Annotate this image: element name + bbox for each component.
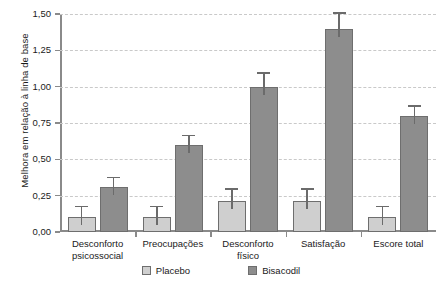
x-category-label: Preocupações [135,238,210,250]
error-bar-cap [376,206,389,208]
error-bar-cap [75,206,88,208]
y-tick-label: 0,75 [33,118,52,128]
legend-label: Placebo [156,265,190,276]
bar-group [286,14,361,232]
error-bar-cap [107,177,120,179]
x-tick-mark [210,232,211,237]
error-bar [263,74,265,95]
y-tick-label: 1,50 [33,9,52,19]
error-bar [414,107,416,124]
bar-chart: Melhora em relação à linha de base 0,000… [0,0,442,291]
error-bar [231,190,233,210]
error-bar-cap [301,188,314,190]
x-category-label-line: Satisfação [286,238,361,250]
x-category-label-line: físico [210,250,285,262]
y-tick-label: 1,00 [33,82,52,92]
legend-item-placebo: Placebo [142,265,190,276]
x-category-label-line: Desconforto [210,238,285,250]
bar-group [361,14,436,232]
bar-bisacodil [400,116,428,232]
x-tick-mark [286,232,287,237]
bar-bisacodil [250,87,278,232]
y-tick-label: 1,25 [33,46,52,56]
x-tick-mark [361,232,362,237]
error-bar-cap [182,135,195,137]
x-category-label: Satisfação [286,238,361,250]
y-axis-title: Melhora em relação à linha de base [19,1,30,221]
bar-group [210,14,285,232]
bar-bisacodil [325,29,353,232]
error-bar [306,190,308,210]
legend-item-bisacodil: Bisacodil [248,265,300,276]
chart-legend: PlaceboBisacodil [0,265,442,276]
plot-area: 0,000,250,500,751,001,251,50 [60,14,436,232]
x-category-label: Desconfortopsicossocial [60,238,135,261]
error-bar [382,207,384,225]
error-bar-cap [333,12,346,14]
legend-swatch-icon [248,266,257,275]
x-category-label: Desconfortofísico [210,238,285,261]
x-category-label-line: Preocupações [135,238,210,250]
x-category-label-line: Desconforto [60,238,135,250]
error-bar-cap [257,72,270,74]
bar-bisacodil [175,145,203,232]
y-tick-label: 0,25 [33,191,52,201]
error-bar [156,207,158,225]
error-bar-cap [408,105,421,107]
error-bar-cap [150,206,163,208]
bar-group [135,14,210,232]
bar-group [60,14,135,232]
legend-label: Bisacodil [262,265,300,276]
error-bar [113,178,115,195]
x-category-label-line: Escore total [361,238,436,250]
x-category-label: Escore total [361,238,436,250]
error-bar [188,136,190,153]
y-tick-label: 0,50 [33,155,52,165]
error-bar-cap [225,188,238,190]
legend-swatch-icon [142,266,151,275]
error-bar [81,207,83,225]
y-tick-label: 0,00 [33,227,52,237]
x-category-label-line: psicossocial [60,250,135,262]
x-tick-mark [135,232,136,237]
error-bar [338,14,340,37]
